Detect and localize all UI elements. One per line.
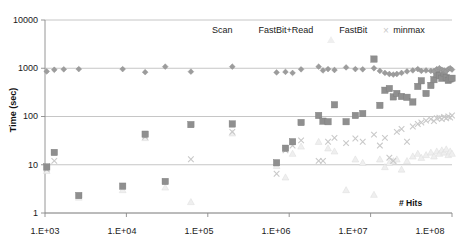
x-tick-label: 1.E+04 [98,226,146,236]
scatter-chart: 10000 1000 100 10 1 1.E+03 1.E+04 1.E+05… [0,0,461,246]
x-tick-label: 1.E+08 [406,226,454,236]
y-axis-title: Time (sec) [8,70,18,150]
x-axis-title: # Hits [399,198,422,208]
y-tick-label: 10 [0,160,38,170]
y-tick-label: 1000 [0,63,38,73]
series-scan-points [44,64,455,78]
x-tick-label: 1.E+06 [252,226,300,236]
x-icon: × [381,26,390,35]
legend-label: minmax [393,25,425,35]
y-tick-label: 10000 [0,15,38,25]
chart-legend: Scan FastBit+Read FastBit × minmax [200,25,425,35]
legend-label: Scan [212,25,233,35]
series-minmax-points [44,113,455,177]
x-tick-label: 1.E+05 [175,226,223,236]
square-icon [247,26,256,35]
y-tick-label: 1 [0,208,38,218]
legend-item-fastbit-read: FastBit+Read [247,25,314,35]
legend-label: FastBit [339,25,367,35]
series-fastbit-points [43,130,455,205]
tick-marks [41,20,452,217]
gridlines [45,20,452,213]
legend-label: FastBit+Read [259,25,314,35]
legend-item-fastbit: FastBit [327,25,367,35]
legend-item-scan: Scan [200,25,233,35]
x-tick-label: 1.E+03 [21,226,69,236]
triangle-icon [327,26,336,35]
diamond-icon [200,26,209,35]
x-tick-label: 1.E+07 [329,226,377,236]
legend-item-minmax: × minmax [381,25,425,35]
plot-area [0,0,461,246]
y-tick-label: 100 [0,111,38,121]
